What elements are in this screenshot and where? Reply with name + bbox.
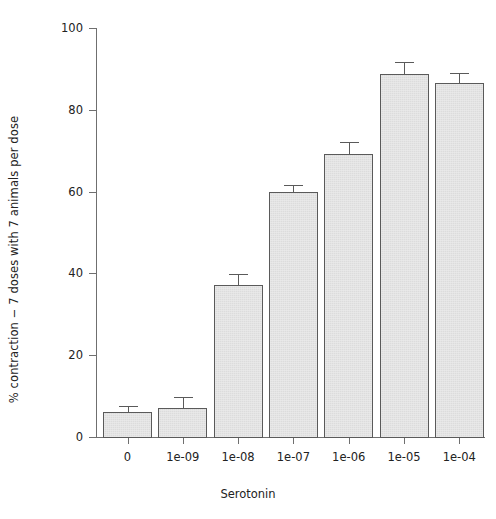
y-axis-tick	[89, 110, 96, 111]
error-bar-stem	[349, 142, 350, 154]
x-axis-tick	[404, 437, 405, 444]
error-bar-stem	[459, 73, 460, 83]
chart-figure: % contraction − 7 doses with 7 animals p…	[0, 0, 496, 519]
y-axis-tick	[89, 355, 96, 356]
x-axis-tick	[459, 437, 460, 444]
bar	[103, 412, 152, 438]
error-bar-stem	[183, 397, 184, 408]
error-bar-cap	[340, 142, 359, 143]
y-axis-tick	[89, 437, 96, 438]
y-axis-tick	[89, 28, 96, 29]
error-bar-cap	[284, 185, 303, 186]
x-axis-tick-label: 1e-07	[277, 450, 310, 464]
error-bar-cap	[450, 73, 469, 74]
x-axis-tick	[238, 437, 239, 444]
error-bar-cap	[174, 397, 193, 398]
y-axis-tick	[89, 192, 96, 193]
bar	[380, 74, 429, 438]
x-axis-title: Serotonin	[0, 487, 496, 501]
x-axis-tick	[128, 437, 129, 444]
error-bar-stem	[293, 185, 294, 192]
x-axis-tick	[349, 437, 350, 444]
error-bar-stem	[238, 274, 239, 285]
error-bar-cap	[119, 406, 138, 407]
bar	[435, 83, 484, 438]
y-axis-tick-label: 60	[0, 185, 83, 199]
error-bar-stem	[404, 62, 405, 74]
bar	[324, 154, 373, 438]
x-axis-tick	[183, 437, 184, 444]
y-axis-tick-label: 40	[0, 266, 83, 280]
x-axis-tick-label: 1e-04	[443, 450, 476, 464]
y-axis-tick-label: 20	[0, 348, 83, 362]
y-axis-tick-label: 80	[0, 103, 83, 117]
y-axis-tick	[89, 273, 96, 274]
x-axis-tick-label: 0	[124, 450, 131, 464]
x-axis-tick-label: 1e-09	[166, 450, 199, 464]
error-bar-cap	[395, 62, 414, 63]
bar	[214, 285, 263, 438]
x-axis-tick-label: 1e-06	[332, 450, 365, 464]
bar	[269, 192, 318, 438]
error-bar-cap	[229, 274, 248, 275]
y-axis-tick-label: 0	[0, 430, 83, 444]
x-axis-tick-label: 1e-05	[387, 450, 420, 464]
y-axis-tick-label: 100	[0, 21, 83, 35]
x-axis-tick	[293, 437, 294, 444]
bar	[158, 408, 207, 438]
x-axis-tick-label: 1e-08	[222, 450, 255, 464]
